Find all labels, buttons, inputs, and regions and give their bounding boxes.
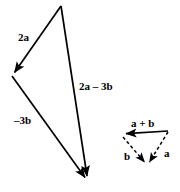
label-b: b — [124, 151, 130, 162]
label-2a: 2a — [18, 32, 29, 43]
label-a-plus-b: a + b — [131, 118, 154, 129]
label-2a-minus-3b: 2a – 3b — [79, 81, 113, 92]
label-a: a — [164, 148, 170, 159]
edge-a-plus-b-arrow — [126, 131, 168, 134]
vector-diagram-canvas — [0, 0, 180, 192]
vector-figure: 2a 2a – 3b –3b a + b b a — [0, 0, 180, 192]
label-minus-3b: –3b — [14, 115, 31, 126]
